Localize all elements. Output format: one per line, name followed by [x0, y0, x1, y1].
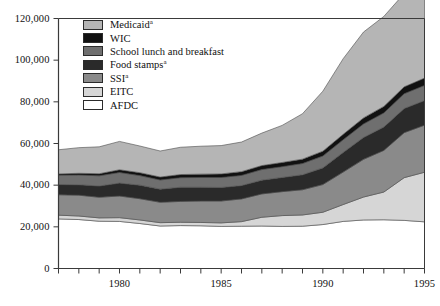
- legend-swatch-icon: [83, 87, 103, 97]
- legend-footnote-marker: a: [163, 58, 166, 66]
- x-tick-label: 1990: [293, 278, 353, 289]
- legend-item: WIC: [83, 31, 243, 44]
- legend-item: Food stampsa: [83, 58, 243, 71]
- legend-label: Medicaida: [110, 19, 153, 30]
- legend-label: Food stampsa: [110, 59, 167, 70]
- legend-footnote-marker: a: [150, 18, 153, 26]
- chart-legend: MedicaidaWICSchool lunch and breakfastFo…: [83, 18, 243, 112]
- legend-swatch-icon: [83, 20, 103, 30]
- y-tick-label: 120,000: [0, 13, 50, 24]
- legend-footnote-marker: a: [125, 71, 128, 79]
- legend-label: WIC: [110, 33, 130, 44]
- x-tick-label: 1985: [191, 278, 251, 289]
- legend-swatch-icon: [83, 46, 103, 56]
- y-tick-label: 60,000: [0, 138, 50, 149]
- x-tick-label: 1995: [395, 278, 440, 289]
- y-tick-label: 80,000: [0, 96, 50, 107]
- legend-item: EITC: [83, 85, 243, 98]
- chart-figure: 020,00040,00060,00080,000100,000120,000 …: [0, 0, 440, 306]
- legend-swatch-icon: [83, 100, 103, 110]
- legend-label: SSIa: [110, 73, 128, 84]
- legend-label: School lunch and breakfast: [110, 46, 224, 57]
- y-tick-label: 100,000: [0, 54, 50, 65]
- y-tick-label: 20,000: [0, 221, 50, 232]
- y-tick-label: 0: [0, 263, 50, 274]
- legend-item: AFDC: [83, 98, 243, 111]
- legend-item: School lunch and breakfast: [83, 45, 243, 58]
- legend-swatch-icon: [83, 73, 103, 83]
- legend-swatch-icon: [83, 60, 103, 70]
- legend-label: AFDC: [110, 100, 138, 111]
- y-tick-label: 40,000: [0, 179, 50, 190]
- legend-item: SSIa: [83, 72, 243, 85]
- x-tick-label: 1980: [90, 278, 150, 289]
- legend-item: Medicaida: [83, 18, 243, 31]
- legend-label: EITC: [110, 86, 133, 97]
- legend-swatch-icon: [83, 33, 103, 43]
